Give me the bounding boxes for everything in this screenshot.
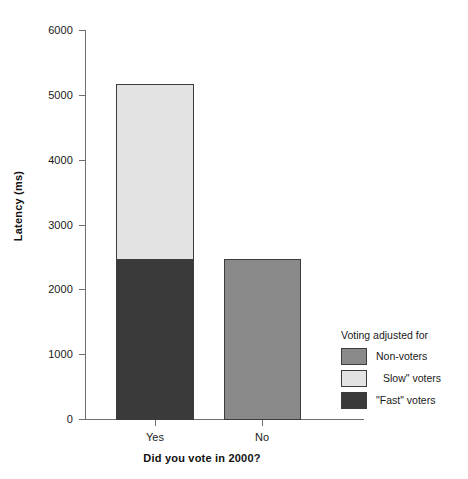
- y-tick-5000: [79, 95, 85, 96]
- y-tick-6000: [79, 30, 85, 31]
- y-tick-label-6000: 6000: [48, 25, 73, 36]
- legend-swatch-non-voters: [341, 348, 367, 365]
- y-tick-label-5000: 5000: [48, 90, 73, 101]
- bar-chart-figure: 6000 5000 4000 3000 2000 1000 0 Yes No D…: [0, 0, 468, 479]
- bar-no-non-voters: [224, 259, 301, 420]
- y-tick-label-2000: 2000: [48, 284, 73, 295]
- y-tick-label-1000: 1000: [48, 349, 73, 360]
- y-tick-label-4000: 4000: [48, 155, 73, 166]
- bar-yes-fast-voters: [116, 259, 194, 420]
- legend-item-non-voters: Non-voters: [341, 347, 468, 369]
- y-tick-0: [79, 419, 85, 420]
- x-tick-label-no: No: [222, 431, 302, 443]
- legend-label-fast-voters: "Fast" voters: [376, 394, 435, 406]
- legend-item-slow-voters: Slow" voters: [341, 369, 468, 391]
- x-tick-yes: [155, 420, 156, 426]
- bar-yes-slow-voters: [116, 84, 194, 260]
- legend-title: Voting adjusted for: [341, 329, 468, 341]
- y-tick-4000: [79, 160, 85, 161]
- legend-label-slow-voters: Slow" voters: [383, 372, 441, 384]
- x-tick-label-yes: Yes: [115, 431, 195, 443]
- y-tick-3000: [79, 225, 85, 226]
- legend-swatch-slow-voters: [341, 370, 367, 387]
- x-tick-no: [262, 420, 263, 426]
- x-axis-title: Did you vote in 2000?: [0, 452, 404, 464]
- legend-swatch-fast-voters: [341, 392, 367, 409]
- y-tick-2000: [79, 289, 85, 290]
- chart-legend: Voting adjusted for Non-voters Slow" vot…: [341, 329, 468, 413]
- y-tick-label-3000: 3000: [48, 220, 73, 231]
- y-axis-title: Latency (ms): [12, 146, 24, 266]
- y-tick-1000: [79, 354, 85, 355]
- legend-label-non-voters: Non-voters: [376, 350, 427, 362]
- legend-item-fast-voters: "Fast" voters: [341, 391, 468, 413]
- y-axis-line: [85, 30, 86, 420]
- y-tick-label-0: 0: [67, 414, 73, 425]
